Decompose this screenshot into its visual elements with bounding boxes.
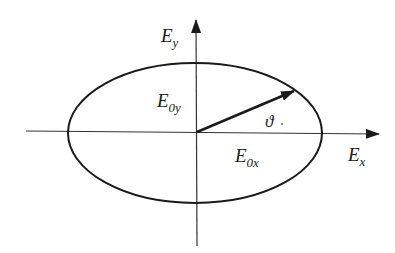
x-axis [26,131,379,134]
angle-dot [281,123,283,125]
field-vector-arrow [197,91,294,132]
y-axis-label: Ey [160,25,179,50]
polarization-ellipse-diagram: Ey Ex E0y E0x ϑ [0,0,395,253]
amplitude-y-label: E0y [156,90,181,115]
amplitude-x-label: E0x [234,145,259,170]
angle-label: ϑ [265,112,275,131]
y-axis [196,20,197,246]
x-axis-label: Ex [347,144,366,169]
